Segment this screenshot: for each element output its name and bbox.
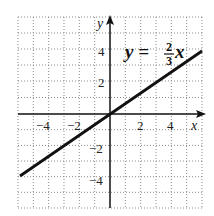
x-tick-label: −2 — [67, 118, 81, 133]
x-tick-label: −4 — [36, 118, 50, 133]
y-axis-label: y — [95, 16, 104, 31]
graph: x y −4 −2 2 4 4 2 −2 −4 y = 2 3 x — [0, 0, 214, 216]
y-tick-label: −2 — [89, 141, 103, 156]
y-tick-label: 2 — [98, 75, 105, 90]
y-tick-label: 4 — [98, 44, 105, 59]
x-tick-label: 2 — [137, 118, 144, 133]
equation-denominator: 3 — [166, 54, 172, 68]
equation-left: y = — [123, 41, 149, 62]
x-axis-label: x — [190, 118, 198, 133]
y-tick-label: −4 — [89, 173, 103, 188]
equation-numerator: 2 — [166, 40, 172, 54]
x-tick-label: 4 — [167, 118, 174, 133]
equation-variable: x — [174, 41, 185, 62]
equation-annotation: y = 2 3 x — [123, 40, 185, 68]
